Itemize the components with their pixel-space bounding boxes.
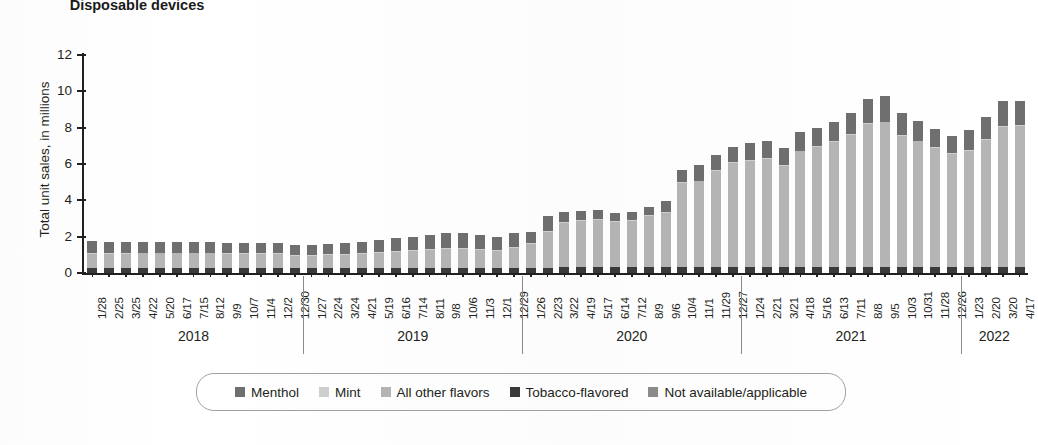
bar-segment <box>627 221 637 267</box>
x-tick-mark <box>631 273 633 277</box>
bar-segment <box>205 253 215 267</box>
bar-segment <box>795 132 805 150</box>
x-tick-mark <box>479 273 481 277</box>
bar-series-container <box>84 55 1028 273</box>
x-tick-label: 3/25 <box>130 297 142 319</box>
bar-segment <box>425 250 435 268</box>
year-separator <box>303 276 304 354</box>
bar-segment <box>239 254 249 268</box>
bar-segment <box>273 254 283 268</box>
bar-segment <box>559 223 569 268</box>
bar-segment <box>947 154 957 267</box>
bar-stack <box>475 235 485 273</box>
bar-stack <box>728 147 738 273</box>
bar-stack <box>222 242 232 273</box>
bar-segment <box>745 143 755 159</box>
x-tick-mark <box>934 273 936 277</box>
x-tick-label: 8/11 <box>434 298 446 319</box>
bar-segment <box>964 130 974 150</box>
bar-segment <box>779 166 789 267</box>
x-tick-label: 10/6 <box>467 297 479 319</box>
x-tick-mark <box>715 273 717 277</box>
x-tick-label: 11/29 <box>720 292 732 319</box>
bar-stack <box>677 170 687 273</box>
bar-segment <box>661 201 671 212</box>
year-group-label: 2020 <box>522 328 741 344</box>
bar-segment <box>340 243 350 254</box>
x-tick-mark <box>732 273 734 277</box>
bar-stack <box>408 237 418 274</box>
bar-stack <box>913 121 923 273</box>
y-tick-label: 10 <box>42 84 72 98</box>
bar-stack <box>172 242 182 273</box>
bar-segment <box>458 249 468 268</box>
x-tick-label: 9/8 <box>450 304 462 319</box>
bar-segment <box>913 141 923 266</box>
bar-segment <box>610 213 620 221</box>
x-tick-mark <box>918 273 920 277</box>
bar-stack <box>239 243 249 273</box>
x-tick-mark <box>344 273 346 277</box>
bar-segment <box>947 136 957 153</box>
x-tick-mark <box>294 273 296 277</box>
bar-stack <box>155 242 165 273</box>
x-tick-mark <box>833 273 835 277</box>
bar-stack <box>711 155 721 273</box>
bar-segment <box>374 253 384 268</box>
bar-segment <box>492 251 502 268</box>
bar-segment <box>138 253 148 267</box>
year-group-label: 2021 <box>741 328 960 344</box>
bar-segment <box>930 129 940 147</box>
x-tick-label: 11/28 <box>939 292 951 319</box>
x-tick-label: 2/23 <box>552 297 564 319</box>
bar-segment <box>880 96 890 121</box>
bar-segment <box>441 233 451 248</box>
bar-segment <box>256 243 266 254</box>
bar-segment <box>762 159 772 267</box>
x-tick-mark <box>210 273 212 277</box>
bar-stack <box>273 243 283 273</box>
bar-stack <box>846 113 856 273</box>
x-tick-mark <box>412 273 414 277</box>
bar-stack <box>121 242 131 273</box>
bar-segment <box>829 122 839 142</box>
bar-stack <box>87 241 97 273</box>
x-tick-mark <box>698 273 700 277</box>
bar-stack <box>762 141 772 273</box>
bar-segment <box>222 243 232 254</box>
x-tick-mark <box>951 273 953 277</box>
bar-segment <box>998 127 1008 267</box>
x-tick-mark <box>462 273 464 277</box>
bar-stack <box>492 237 502 274</box>
x-tick-label: 10/3 <box>906 297 918 319</box>
bar-segment <box>576 211 586 220</box>
bar-segment <box>121 242 131 253</box>
x-tick-label: 12/27 <box>737 291 749 319</box>
x-tick-label: 1/27 <box>316 297 328 319</box>
x-tick-mark <box>395 273 397 277</box>
bar-stack <box>644 207 654 273</box>
bar-segment <box>323 255 333 268</box>
bar-segment <box>829 142 839 266</box>
bar-stack <box>947 136 957 273</box>
bar-stack <box>307 245 317 273</box>
bar-stack <box>526 232 536 273</box>
x-tick-label: 12/1 <box>501 297 513 319</box>
x-tick-mark <box>496 273 498 277</box>
bar-segment <box>846 135 856 267</box>
bar-segment <box>779 148 789 165</box>
x-tick-label: 5/16 <box>821 297 833 319</box>
bar-segment <box>543 232 553 268</box>
bar-segment <box>694 165 704 180</box>
bar-segment <box>357 242 367 253</box>
disposable-devices-chart: Disposable devices Total unit sales, in … <box>0 0 1038 445</box>
bar-stack <box>812 128 822 273</box>
bar-segment <box>222 254 232 268</box>
x-tick-label: 3/24 <box>349 297 361 319</box>
x-tick-mark <box>901 273 903 277</box>
x-tick-label: 11/4 <box>265 298 277 319</box>
bar-stack <box>779 148 789 273</box>
bar-stack <box>694 165 704 273</box>
bar-stack <box>441 233 451 273</box>
bar-segment <box>205 242 215 253</box>
